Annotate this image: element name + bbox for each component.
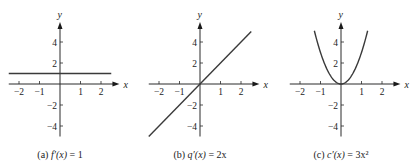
x-axis-label: x [403, 79, 409, 90]
panel-b-linear-derivative: xy−2−112−4−224(b) q′(x) = 2x [149, 9, 269, 161]
panel-a-constant-derivative: xy−2−112−4−224(a) f′(x) = 1 [9, 9, 129, 161]
y-tick-label: −4 [47, 122, 57, 132]
x-tick-label: 2 [99, 87, 104, 97]
y-tick-label: 4 [333, 38, 338, 48]
y-tick-label: 2 [192, 59, 197, 69]
x-tick-label: −1 [34, 87, 44, 97]
y-axis-label: y [197, 9, 203, 20]
caption-rhs: = 1 [67, 149, 83, 160]
caption-prefix: (c) [314, 149, 328, 161]
caption-function: q′(x) [188, 149, 207, 161]
y-axis-arrow-icon [58, 22, 63, 29]
caption-prefix: (b) [173, 149, 187, 161]
y-tick-label: 2 [52, 59, 57, 69]
y-axis-arrow-icon [339, 22, 344, 29]
y-tick-label: −4 [187, 122, 197, 132]
x-tick-label: 2 [239, 87, 244, 97]
y-tick-label: −2 [187, 101, 197, 111]
panel-c-quadratic-derivative: xy−2−112−4−224(c) c′(x) = 3x² [290, 9, 410, 161]
y-axis-arrow-icon [198, 22, 203, 29]
x-axis-arrow-icon [393, 82, 400, 87]
x-tick-label: −2 [295, 87, 305, 97]
caption-prefix: (a) [37, 149, 51, 161]
x-tick-label: 1 [359, 87, 364, 97]
derivative-graphs-figure: xy−2−112−4−224(a) f′(x) = 1 xy−2−112−4−2… [0, 0, 419, 168]
x-tick-label: 1 [218, 87, 223, 97]
panel-caption: (c) c′(x) = 3x² [314, 149, 369, 161]
caption-rhs: = 2x [206, 149, 227, 160]
y-tick-label: −2 [328, 101, 338, 111]
panel-caption: (b) q′(x) = 2x [173, 149, 226, 161]
y-tick-label: 4 [192, 38, 197, 48]
y-tick-label: 2 [333, 59, 338, 69]
x-tick-label: −1 [315, 87, 325, 97]
x-tick-label: 2 [380, 87, 385, 97]
x-tick-label: −2 [154, 87, 164, 97]
x-axis-arrow-icon [112, 82, 119, 87]
caption-function: f′(x) [51, 149, 68, 161]
x-tick-label: −1 [174, 87, 184, 97]
x-axis-label: x [122, 79, 128, 90]
caption-function: c′(x) [327, 149, 345, 161]
y-axis-label: y [338, 9, 344, 20]
x-axis-label: x [262, 79, 268, 90]
y-tick-label: −2 [47, 101, 57, 111]
y-axis-label: y [57, 9, 63, 20]
caption-rhs: = 3x² [345, 149, 369, 160]
x-axis-arrow-icon [252, 82, 259, 87]
y-tick-label: 4 [52, 38, 57, 48]
y-tick-label: −4 [328, 122, 338, 132]
x-tick-label: 1 [78, 87, 83, 97]
panel-caption: (a) f′(x) = 1 [37, 149, 82, 161]
x-tick-label: −2 [14, 87, 24, 97]
